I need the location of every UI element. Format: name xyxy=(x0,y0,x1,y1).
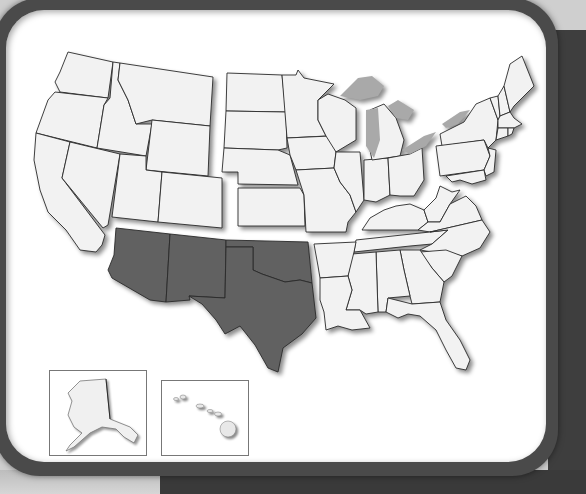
region-southwest[interactable] xyxy=(108,228,316,372)
state-co[interactable] xyxy=(158,172,222,228)
state-me[interactable] xyxy=(504,56,534,112)
state-ri[interactable] xyxy=(508,128,514,136)
state-in[interactable] xyxy=(364,158,390,202)
state-ky[interactable] xyxy=(362,204,428,230)
state-ia[interactable] xyxy=(287,136,336,170)
state-fl[interactable] xyxy=(386,298,470,370)
state-sd[interactable] xyxy=(224,111,287,150)
state-wa[interactable] xyxy=(55,52,113,98)
state-az[interactable] xyxy=(108,228,170,302)
map-card xyxy=(6,10,546,462)
state-nd[interactable] xyxy=(226,73,286,112)
state-nm[interactable] xyxy=(166,234,226,302)
state-ne[interactable] xyxy=(222,148,298,185)
state-ct[interactable] xyxy=(496,128,508,140)
hawaii-inset[interactable] xyxy=(161,380,249,456)
state-wy[interactable] xyxy=(146,120,210,176)
state-ks[interactable] xyxy=(238,188,305,226)
hawaii-shape xyxy=(162,381,248,455)
region-west[interactable] xyxy=(34,52,222,252)
alaska-inset[interactable] xyxy=(49,370,147,456)
alaska-shape xyxy=(50,371,146,455)
